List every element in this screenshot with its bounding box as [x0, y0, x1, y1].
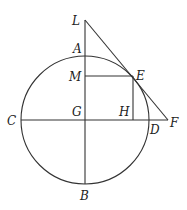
- label-L: L: [71, 14, 80, 28]
- label-A: A: [72, 42, 82, 56]
- geometry-diagram: L A M E C G H D F B: [0, 0, 187, 210]
- label-G: G: [72, 105, 82, 119]
- label-B: B: [79, 189, 89, 203]
- label-E: E: [135, 69, 145, 83]
- label-M: M: [68, 70, 82, 84]
- label-H: H: [118, 105, 130, 119]
- label-F: F: [169, 116, 179, 130]
- label-D: D: [149, 123, 160, 137]
- label-C: C: [7, 114, 16, 128]
